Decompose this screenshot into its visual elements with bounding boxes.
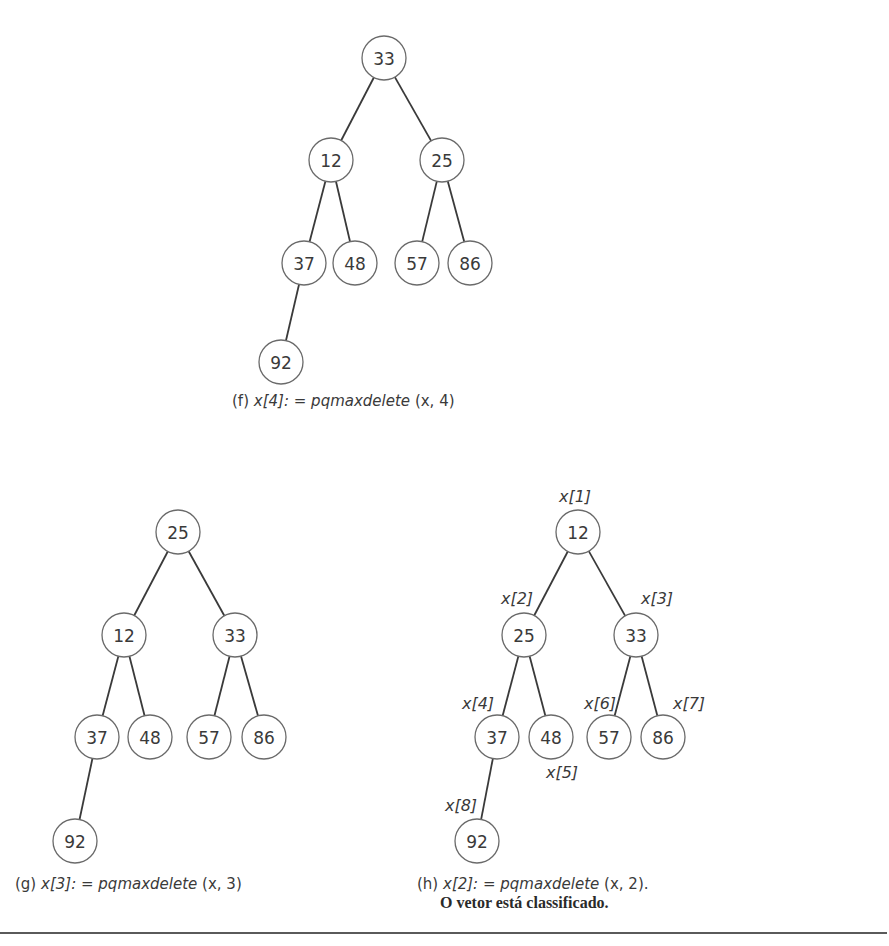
node-value: 25 [431,151,453,171]
caption-lhs: x[2]: [443,875,478,893]
tree-node: 33 [362,36,406,80]
caption-tag: (h) [417,875,438,893]
tree-edge [336,181,350,241]
tree-node: 25 [502,613,546,657]
node-value: 86 [253,728,275,748]
node-value: 48 [139,728,161,748]
node-value: 92 [64,832,86,852]
node-value: 25 [167,523,189,543]
tree-edge [286,284,299,340]
node-value: 33 [625,626,647,646]
node-value: 33 [373,49,395,69]
caption-op: = [81,875,94,893]
caption-g: (g) x[3]: = pqmaxdelete (x, 3) [15,875,242,893]
horizontal-rule [0,932,887,934]
array-index-label: x[6] [583,694,616,713]
tree-edge [129,656,144,715]
tree-node: 33 [213,613,257,657]
tree-edge [341,78,374,141]
node-value: 92 [270,353,292,373]
tree-edge [534,551,568,615]
caption-func: pqmaxdelete [311,392,410,410]
tree-edge [481,759,493,820]
tree-node: 33 [614,613,658,657]
heap-sort-figure: 3312253748578692 2512333748578692 122533… [0,0,889,946]
tree-node: 86 [242,715,286,759]
node-value: 48 [344,254,366,274]
tree-edge [503,656,519,715]
node-value: 57 [406,254,428,274]
tree-node: 92 [53,819,97,863]
tree-node: 48 [529,715,573,759]
node-value: 86 [459,254,481,274]
tree-node: 12 [102,613,146,657]
node-value: 37 [486,728,508,748]
caption-lhs: x[3]: [41,875,76,893]
caption-op: = [294,392,307,410]
node-value: 86 [652,728,674,748]
array-index-label: x[7] [672,694,705,713]
node-value: 37 [293,254,315,274]
array-index-label: x[2] [500,589,533,608]
caption-func: pqmaxdelete [500,875,599,893]
caption-f: (f) x[4]: = pqmaxdelete (x, 4) [232,392,455,410]
tree-edge [422,181,437,241]
tree-edge [103,656,119,715]
tree-node: 37 [475,715,519,759]
array-index-label: x[5] [545,763,578,782]
caption-args: (x, 4) [415,392,455,410]
tree-node: 57 [187,715,231,759]
caption-args: (x, 3) [202,875,242,893]
tree-edge [80,759,93,820]
tree-node: 25 [420,138,464,182]
tree-edge [134,551,168,615]
tree-edge [241,656,258,716]
tree-node: 25 [156,510,200,554]
tree-node: 37 [282,241,326,285]
caption-tag: (g) [15,875,36,893]
tree-node: 48 [128,715,172,759]
node-value: 33 [224,626,246,646]
node-value: 57 [198,728,220,748]
tree-edge [530,656,546,715]
node-value: 12 [320,151,342,171]
tree-edge [214,656,229,715]
tree-edge [310,181,326,241]
caption-func: pqmaxdelete [98,875,197,893]
array-index-label: x[3] [640,589,673,608]
array-index-label: x[4] [461,694,494,713]
node-value: 48 [540,728,562,748]
node-value: 92 [466,832,488,852]
tree-node: 57 [587,715,631,759]
tree-node: 92 [455,819,499,863]
tree-node: 37 [75,715,119,759]
tree-edge [615,656,631,715]
caption-lhs: x[4]: [254,392,289,410]
node-value: 25 [513,626,535,646]
tree-node: 12 [309,138,353,182]
caption-args: (x, 2). [604,875,648,893]
tree-node: 12 [556,510,600,554]
node-value: 12 [567,523,589,543]
node-value: 57 [598,728,620,748]
caption-h-sorted-note: O vetor está classificado. [440,894,609,912]
panel-h-tree: 1225333748578692x[1]x[2]x[3]x[4]x[5]x[6]… [444,487,705,863]
panel-g-tree: 2512333748578692 [53,510,286,863]
node-value: 12 [113,626,135,646]
tree-edge [589,551,625,616]
tree-edge [448,181,464,242]
tree-node: 92 [259,340,303,384]
panel-f-tree: 3312253748578692 [259,36,492,384]
tree-node: 57 [395,241,439,285]
tree-edge [395,77,431,141]
tree-edge [642,656,658,715]
array-index-label: x[1] [558,487,591,506]
tree-edge [189,551,225,616]
array-index-label: x[8] [444,796,477,815]
caption-tag: (f) [232,392,249,410]
tree-node: 48 [333,241,377,285]
caption-h: (h) x[2]: = pqmaxdelete (x, 2). [417,875,649,893]
caption-op: = [483,875,496,893]
node-value: 37 [86,728,108,748]
tree-node: 86 [641,715,685,759]
